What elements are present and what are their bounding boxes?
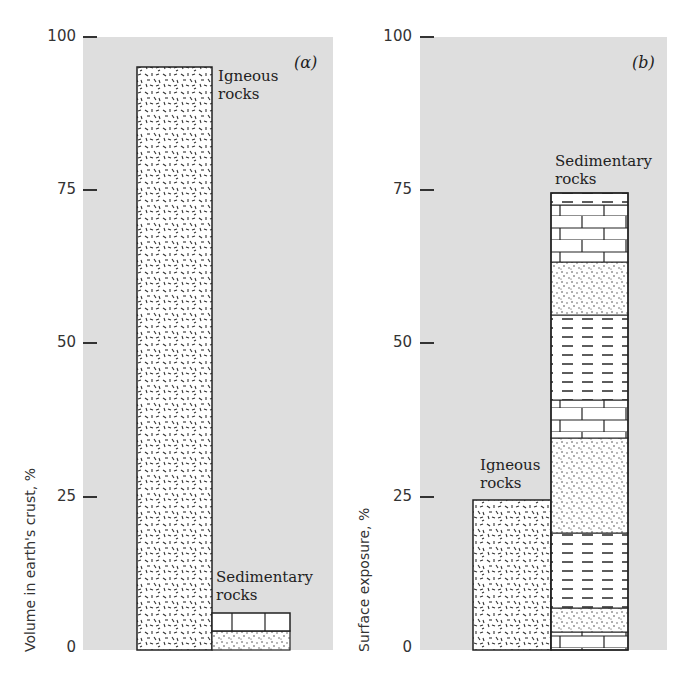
a-sed-limestone (212, 613, 290, 631)
a-igneous-bar (137, 67, 212, 650)
bars-canvas (0, 0, 682, 688)
a-sed-sandstone (212, 631, 290, 650)
b-igneous-bar (473, 500, 551, 650)
b-sedimentary-bar (551, 193, 628, 650)
